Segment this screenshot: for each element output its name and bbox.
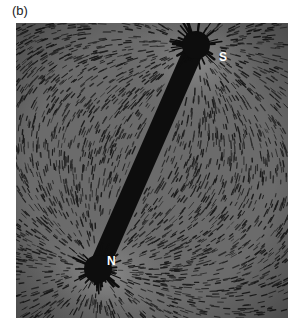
south-pole-label: S [219,50,227,64]
bar-magnet-photo: S N [16,23,288,318]
north-pole-label: N [107,254,116,268]
iron-filings-field [16,23,288,318]
panel-label: (b) [12,3,28,18]
